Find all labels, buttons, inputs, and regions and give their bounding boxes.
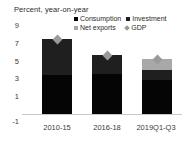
- legend-label-consumption: Consumption: [80, 14, 121, 23]
- legend-swatch-consumption-icon: [74, 17, 78, 21]
- chart-title: Percent, year-on-year: [14, 5, 89, 14]
- y-tick-label-1: 1: [15, 93, 19, 101]
- y-tick-label-5: 5: [15, 58, 19, 66]
- bar-group-2019q1-q3[interactable]: [142, 22, 172, 114]
- axis-baseline: [22, 114, 182, 115]
- y-axis: 9 7 5 3 1 -1: [0, 22, 22, 127]
- stacked-bar: [142, 59, 172, 114]
- legend-label-gdp: GDP: [131, 23, 146, 32]
- bar-segment-consumption: [142, 80, 172, 114]
- x-tick-label-2019q1-q3: 2019Q1-Q3: [124, 123, 188, 132]
- legend-label-net-exports: Net exports: [80, 23, 116, 32]
- bar-segment-consumption: [42, 75, 72, 114]
- legend-swatch-investment-icon: [126, 17, 130, 21]
- chart-legend: Consumption Investment Net exports GDP: [74, 14, 186, 32]
- bar-segment-consumption: [92, 74, 122, 114]
- bar-group-2016-18[interactable]: [92, 22, 122, 114]
- chart-container: Percent, year-on-year 9 7 5 3 1 -1: [0, 0, 188, 145]
- legend-item-net-exports[interactable]: Net exports: [74, 23, 116, 32]
- stacked-bar: [42, 39, 72, 114]
- stacked-bar: [92, 55, 122, 114]
- x-axis: 2010-15 2016-18 2019Q1-Q3: [24, 123, 182, 137]
- y-tick-label-neg1: -1: [12, 118, 19, 126]
- y-tick-label-9: 9: [15, 22, 19, 30]
- legend-swatch-gdp-diamond-icon: [124, 25, 130, 31]
- legend-row-1: Consumption Investment: [74, 14, 186, 23]
- legend-item-investment[interactable]: Investment: [126, 14, 166, 23]
- legend-row-2: Net exports GDP: [74, 23, 186, 32]
- legend-label-investment: Investment: [132, 14, 166, 23]
- legend-item-consumption[interactable]: Consumption: [74, 14, 121, 23]
- y-tick-label-7: 7: [15, 40, 19, 48]
- legend-swatch-net-exports-icon: [74, 26, 78, 30]
- legend-item-gdp[interactable]: GDP: [125, 23, 147, 32]
- plot-area: [24, 22, 182, 114]
- bar-segment-investment: [142, 70, 172, 80]
- y-tick-label-3: 3: [15, 75, 19, 83]
- bar-group-2010-15[interactable]: [42, 22, 72, 114]
